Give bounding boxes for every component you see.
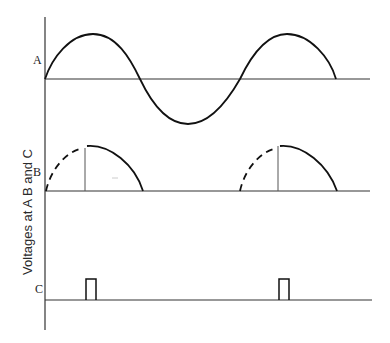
trace-a-label: A xyxy=(33,53,42,68)
trace-a xyxy=(45,34,370,124)
trace-b-dashed-segment-1 xyxy=(46,148,83,191)
trace-c-pulse-2 xyxy=(279,279,289,300)
trace-b xyxy=(45,146,370,191)
trace-b-conducting-segment-2 xyxy=(280,146,337,191)
trace-b-dashed-segment-2 xyxy=(240,148,277,191)
trace-b-conducting-segment-1 xyxy=(87,146,143,191)
trace-c-label: C xyxy=(35,282,43,297)
trace-c xyxy=(45,279,372,300)
waveform-diagram xyxy=(0,0,390,343)
y-axis-label: Voltages at A B and C xyxy=(20,149,35,275)
trace-c-pulse-1 xyxy=(86,279,96,300)
